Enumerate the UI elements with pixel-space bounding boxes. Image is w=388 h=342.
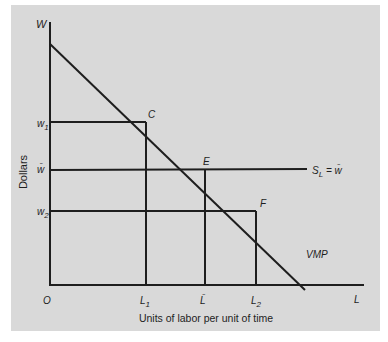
supply-label: SL = w̄ [312, 164, 343, 179]
vmp-curve [50, 44, 305, 290]
y-tick-w1: w1 [37, 118, 49, 132]
x-axis-title: Units of labor per unit of time [139, 312, 273, 324]
x-tick-l1: L1 [140, 295, 150, 309]
point-e-label: E [203, 156, 210, 167]
supply-line [50, 169, 307, 170]
x-axis-end-label: L [354, 294, 360, 305]
y-axis-title: Dollars [17, 154, 29, 189]
x-tick-lbar: L̄ [200, 294, 206, 306]
point-f-label: F [260, 198, 267, 209]
labor-market-diagram: W Dollars w1 w̄ w2 C E F SL = w̄ VMP O L… [0, 0, 388, 342]
y-tick-wbar: w̄ [37, 163, 45, 175]
y-tick-w2: w2 [37, 206, 49, 220]
y-axis-top-label: W [36, 18, 48, 30]
point-c-label: C [148, 109, 156, 120]
origin-label: O [43, 295, 51, 306]
x-tick-l2: L2 [251, 295, 262, 309]
vmp-label: VMP [306, 249, 328, 260]
